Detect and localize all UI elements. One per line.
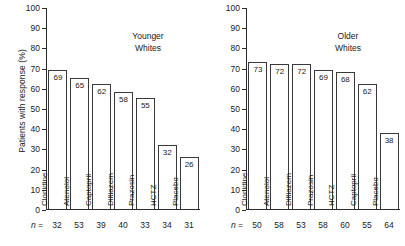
y-axis-tick [42,8,46,9]
y-axis-tick-label: 40 [231,125,240,134]
y-axis-tick-label: 30 [231,145,240,154]
n-value: 64 [378,221,400,230]
bar-category-label: Placebo [380,192,389,221]
n-value: 58 [268,221,290,230]
bar-value-label: 72 [271,67,288,76]
bar-cell: 26Placebo [178,8,200,209]
y-axis-tick [242,149,246,150]
y-axis-tick-label: 50 [31,105,40,114]
y-axis-tick [242,109,246,110]
n-row-label: n = [231,220,243,230]
bar-value-label: 68 [337,75,354,84]
y-axis-tick [42,210,46,211]
bar-value-label: 65 [71,81,88,90]
panel-older-whites: Older Whites 1009080706050403020100 73Cl… [218,8,400,246]
y-axis-tick [242,89,246,90]
y-axis-tick-label: 70 [231,64,240,73]
y-axis-tick [42,69,46,70]
y-axis-tick-label: 80 [31,44,40,53]
y-axis-tick-label: 100 [226,4,240,13]
y-axis-tick [42,170,46,171]
n-value: 40 [112,221,134,230]
bar-value-label: 69 [49,73,66,82]
bar-group: 69Clonidine65Atenolol62Captopril58Diltia… [47,8,200,209]
bar-value-label: 55 [137,101,154,110]
bar-value-label: 73 [249,65,266,74]
n-row-label: n = [31,220,43,230]
y-axis-tick-label: 20 [231,165,240,174]
bar-category-label: Prazosin [136,190,145,221]
bar-value-label: 62 [93,87,110,96]
y-axis-tick [42,109,46,110]
y-axis-tick-label: 60 [231,85,240,94]
n-value: 34 [156,221,178,230]
bar-category-label: HCTZ [336,195,345,216]
y-axis-tick-label: 40 [31,125,40,134]
figure: Patients with response (%) Younger White… [0,0,405,246]
y-axis-tick [242,170,246,171]
y-axis-tick-label: 60 [31,85,40,94]
bar[interactable]: 38Placebo [380,133,399,209]
n-value: 55 [356,221,378,230]
bar-value-label: 26 [181,160,198,169]
n-value: 50 [246,221,268,230]
bar-category-label: HCTZ [158,195,167,216]
y-axis-tick [42,89,46,90]
bar-category-label: Atenolol [71,192,80,221]
y-axis-tick-label: 0 [235,206,240,215]
bar-category-label: Placebo [180,192,189,221]
bar-value-label: 32 [159,148,176,157]
n-row: n = 50585358605564 [246,218,400,232]
bar-cell: 38Placebo [378,8,400,209]
n-value: 60 [334,221,356,230]
y-axis-tick-label: 10 [31,186,40,195]
bar-value-label: 72 [293,67,310,76]
n-row: n = 32533940333431 [46,218,200,232]
y-axis-tick [242,129,246,130]
y-axis-tick [42,129,46,130]
y-axis-tick-label: 30 [31,145,40,154]
n-value: 58 [312,221,334,230]
n-value: 31 [178,221,200,230]
y-axis-tick [242,28,246,29]
plot-area: 1009080706050403020100 73Clonidine72Aten… [246,8,400,210]
bar-cell: 69Prazosin [313,8,335,209]
plot-area: 1009080706050403020100 69Clonidine65Aten… [46,8,200,210]
y-axis-tick [242,210,246,211]
bar-value-label: 69 [315,73,332,82]
y-axis-tick-label: 50 [231,105,240,114]
panel-younger-whites: Younger Whites 1009080706050403020100 69… [18,8,200,246]
bar-category-label: Prazosin [315,190,324,221]
bar-group: 73Clonidine72Atenolol72Diltiazem69Prazos… [247,8,400,209]
y-axis-tick-label: 90 [231,24,240,33]
y-axis-tick-label: 10 [231,186,240,195]
y-axis-tick [42,149,46,150]
n-value: 32 [46,221,68,230]
y-axis-tick [242,69,246,70]
y-axis-tick [42,28,46,29]
n-value: 53 [68,221,90,230]
y-axis-tick-label: 90 [31,24,40,33]
y-axis-tick-label: 20 [31,165,40,174]
bar-category-label: Atenolol [271,192,280,221]
bar-value-label: 38 [381,136,398,145]
y-axis-tick-label: 70 [31,64,40,73]
y-axis-tick [242,48,246,49]
n-value: 33 [134,221,156,230]
n-value: 39 [90,221,112,230]
bar-value-label: 62 [359,87,376,96]
y-axis-tick [242,8,246,9]
bar[interactable]: 26Placebo [180,157,199,209]
y-axis-tick-label: 100 [26,4,40,13]
y-axis-tick [42,48,46,49]
bar-cell: 55Prazosin [134,8,156,209]
y-axis-tick-label: 80 [231,44,240,53]
y-axis-tick-label: 0 [35,206,40,215]
bar-value-label: 58 [115,95,132,104]
n-value: 53 [290,221,312,230]
